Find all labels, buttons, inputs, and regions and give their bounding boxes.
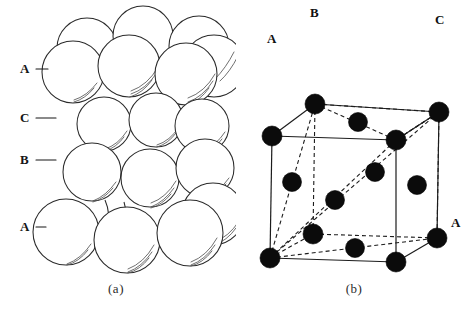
atom-back-top-left-b	[305, 94, 325, 114]
caption-panel-b: (b)	[236, 281, 472, 297]
close-packed-plane-upper	[315, 104, 439, 140]
atom-front-top-left-a	[262, 126, 282, 146]
atom-front-bottom-right	[386, 252, 406, 272]
panel-a-close-packed-spheres: A C B A (a)	[0, 0, 236, 309]
atom-bottom-face-center	[346, 239, 365, 258]
vertex-label-b: B	[310, 6, 319, 19]
atom-front-face-center	[326, 191, 345, 210]
layer-label-a-top: A	[20, 62, 29, 75]
layer-label-c: C	[20, 111, 29, 124]
atom-back-top-right-c	[429, 102, 449, 122]
atom-right-face-center	[408, 176, 427, 195]
panel-b-fcc-unit-cell: A B C A (b)	[236, 0, 472, 309]
figure-container: A C B A (a)	[0, 0, 472, 309]
layer-label-b: B	[20, 153, 29, 166]
vertex-label-c: C	[435, 13, 444, 26]
vertex-label-a-back-bottom-right: A	[451, 216, 460, 229]
atom-front-bottom-left	[260, 248, 280, 268]
atom-left-face-center	[283, 173, 302, 192]
atom-front-top-right	[386, 130, 406, 150]
atom-top-face-center	[349, 113, 368, 132]
atom-back-face-center	[366, 163, 385, 182]
atom-back-bottom-left	[303, 224, 323, 244]
caption-panel-a: (a)	[0, 281, 234, 297]
layer-label-a-bottom: A	[20, 220, 29, 233]
atom-back-bottom-right-a	[427, 228, 447, 248]
vertex-label-a-front-top-left: A	[267, 32, 276, 45]
sphere-layer-a-top-front	[42, 35, 236, 105]
sphere-stack-drawing	[0, 0, 236, 281]
